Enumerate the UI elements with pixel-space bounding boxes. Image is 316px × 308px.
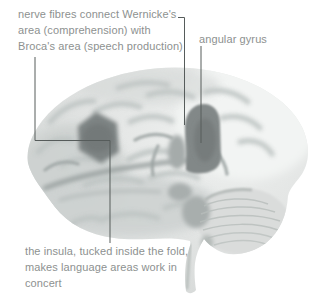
label-nerve-fibres-line-1: nerve fibres connect Wernicke's (18, 6, 183, 22)
label-nerve-fibres-line-2: area (comprehension) with (18, 22, 183, 38)
figure-canvas: nerve fibres connect Wernicke's area (co… (0, 0, 316, 308)
label-nerve-fibres-line-3: Broca's area (speech production) (18, 38, 183, 54)
label-nerve-fibres: nerve fibres connect Wernicke's area (co… (18, 6, 183, 54)
label-insula-line-3: concert (25, 275, 188, 291)
label-angular-gyrus: angular gyrus (199, 31, 267, 47)
label-insula-line-1: the insula, tucked inside the fold, (25, 243, 188, 259)
label-insula-line-2: makes language areas work in (25, 259, 188, 275)
label-insula: the insula, tucked inside the fold, make… (25, 243, 188, 291)
